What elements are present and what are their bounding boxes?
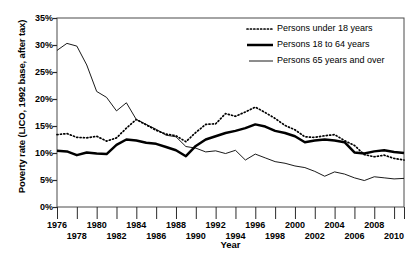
x-tick-label: 2004: [319, 220, 351, 230]
legend-label-3: Persons 65 years and over: [277, 55, 385, 66]
x-tick-label: 1976: [41, 220, 73, 230]
x-tick-label: 1992: [200, 220, 232, 230]
x-tick-label: 1988: [160, 220, 192, 230]
x-tick-label: 2008: [358, 220, 390, 230]
x-axis-title: Year: [56, 239, 405, 250]
legend-label-2: Persons 18 to 64 years: [277, 39, 370, 50]
x-tick-label: 2000: [279, 220, 311, 230]
x-tick-label: 1996: [239, 220, 271, 230]
poverty-rate-line-chart: Poverty rate (LICO, 1992 base, after tax…: [0, 0, 413, 257]
x-tick-label: 1980: [81, 220, 113, 230]
x-tick-label: 1984: [120, 220, 152, 230]
legend-label-1: Persons under 18 years: [277, 23, 373, 34]
